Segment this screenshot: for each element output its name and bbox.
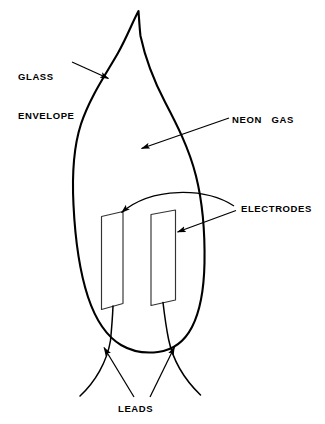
label-leads: LEADS — [118, 402, 153, 415]
label-glass-envelope-line1: GLASS — [18, 70, 75, 83]
label-glass-envelope-line2: ENVELOPE — [18, 109, 75, 122]
glass-envelope-leader — [72, 62, 109, 79]
label-neon-gas: NEON GAS — [232, 113, 294, 126]
electrode-right-plate — [151, 210, 176, 306]
leads-leader-right — [150, 347, 175, 397]
label-glass-envelope: GLASS ENVELOPE — [18, 44, 75, 148]
label-electrodes: ELECTRODES — [241, 202, 312, 215]
neon-lamp-diagram-page: GLASS ENVELOPE NEON GAS ELECTRODES LEADS — [0, 0, 325, 424]
electrodes-leader-right — [178, 211, 237, 233]
electrode-left-plate — [102, 212, 124, 310]
lead-wire-left — [80, 306, 113, 396]
glass-envelope-outline — [73, 11, 205, 352]
leads-leader-left — [104, 348, 134, 398]
electrodes-leader-left — [122, 192, 235, 212]
